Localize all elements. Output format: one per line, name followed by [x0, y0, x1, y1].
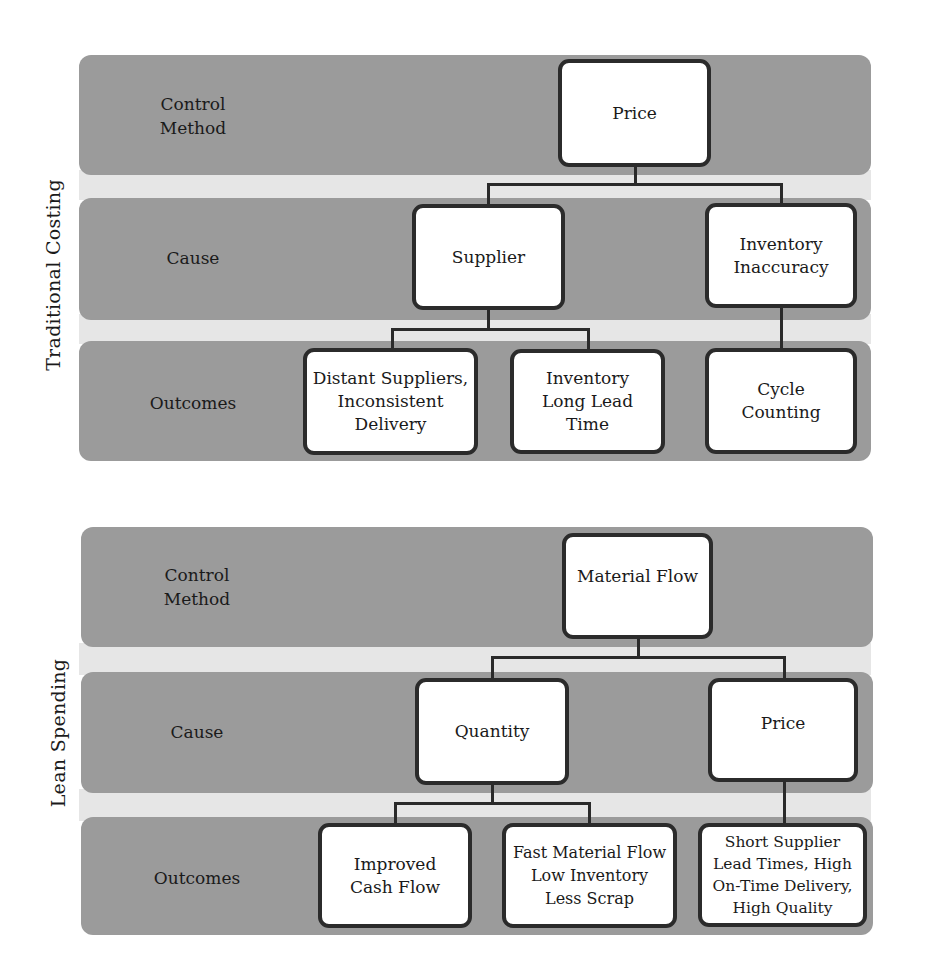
connector-line [394, 802, 397, 824]
node-outcome-short-supplier-lead-times: Short Supplier Lead Times, High On-Time … [698, 823, 867, 927]
node-outcome-fast-material-flow: Fast Material Flow Low Inventory Less Sc… [502, 823, 677, 928]
row-label-control-method: Control Method [112, 563, 282, 611]
node-cause-price: Price [708, 678, 858, 782]
connector-line [783, 656, 786, 680]
node-outcome-improved-cash-flow: Improved Cash Flow [318, 823, 472, 928]
row-label-outcomes: Outcomes [112, 866, 282, 890]
connector-line [491, 656, 786, 659]
node-control-method: Material Flow [562, 533, 713, 639]
row-label-cause: Cause [112, 720, 282, 744]
connector-line [491, 784, 494, 804]
connector-line [491, 656, 494, 680]
connector-line [783, 780, 786, 825]
connector-line [588, 802, 591, 824]
connector-line [637, 638, 640, 658]
side-label: Lean Spending [47, 659, 69, 808]
connector-line [394, 802, 591, 805]
lean-spending-diagram: Lean Spending Control Method Cause Outco… [0, 0, 925, 969]
band-gap [79, 643, 871, 675]
node-cause-quantity: Quantity [415, 678, 569, 785]
